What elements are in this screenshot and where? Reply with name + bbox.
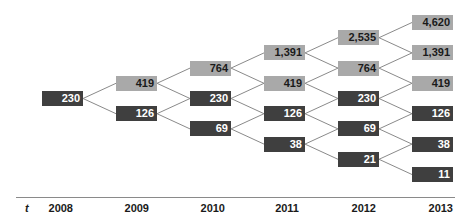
axis-label-2009: 2009 <box>108 202 149 214</box>
tree-link <box>305 129 338 144</box>
tree-node-2011-0: 1,391 <box>264 45 305 60</box>
tree-link <box>305 53 338 68</box>
tree-link <box>157 99 190 114</box>
tree-node-2009-0: 419 <box>116 76 157 91</box>
tree-link <box>379 114 412 129</box>
tree-link <box>305 83 338 98</box>
tree-node-2012-0: 2,535 <box>338 30 379 45</box>
tree-node-2013-4: 38 <box>412 137 453 152</box>
tree-link <box>379 68 412 83</box>
tree-link <box>231 129 264 144</box>
tree-node-2012-3: 69 <box>338 121 379 136</box>
tree-link <box>157 68 190 83</box>
axis-label-2013: 2013 <box>412 202 453 214</box>
tree-link <box>379 129 412 144</box>
tree-link <box>231 53 264 68</box>
tree-link <box>83 99 116 114</box>
binomial-tree-diagram: 230419126764230691,391419126382,53576423… <box>0 0 468 223</box>
tree-link <box>231 99 264 114</box>
tree-link <box>305 144 338 159</box>
tree-link <box>379 83 412 98</box>
tree-node-2010-2: 69 <box>190 121 231 136</box>
tree-link <box>305 68 338 83</box>
tree-node-2012-2: 230 <box>338 91 379 106</box>
tree-link <box>305 114 338 129</box>
axis-label-2010: 2010 <box>184 202 225 214</box>
tree-node-2010-1: 230 <box>190 91 231 106</box>
tree-node-2011-3: 38 <box>264 137 305 152</box>
axis-label-2012: 2012 <box>335 202 376 214</box>
tree-link <box>231 83 264 98</box>
tree-link <box>83 83 116 98</box>
tree-node-2013-0: 4,620 <box>412 15 453 30</box>
tree-node-2012-4: 21 <box>338 152 379 167</box>
tree-node-2009-1: 126 <box>116 106 157 121</box>
axis-variable-label: t <box>25 202 29 214</box>
tree-link <box>305 38 338 53</box>
tree-link <box>379 144 412 159</box>
time-axis-line <box>16 197 455 198</box>
tree-link <box>379 53 412 68</box>
axis-label-2011: 2011 <box>258 202 299 214</box>
axis-label-2008: 2008 <box>32 202 73 214</box>
tree-node-2013-5: 11 <box>412 167 453 182</box>
tree-link <box>157 114 190 129</box>
tree-link <box>379 38 412 53</box>
tree-node-2013-3: 126 <box>412 106 453 121</box>
tree-node-2013-2: 419 <box>412 76 453 91</box>
tree-node-2010-0: 764 <box>190 61 231 76</box>
tree-link <box>305 99 338 114</box>
tree-node-2013-1: 1,391 <box>412 45 453 60</box>
tree-link <box>157 83 190 98</box>
tree-node-2011-2: 126 <box>264 106 305 121</box>
tree-link <box>379 23 412 38</box>
tree-node-2012-1: 764 <box>338 61 379 76</box>
tree-links <box>0 0 468 223</box>
tree-link <box>379 159 412 174</box>
tree-node-2011-1: 419 <box>264 76 305 91</box>
tree-link <box>231 68 264 83</box>
tree-link <box>379 99 412 114</box>
tree-link <box>231 114 264 129</box>
tree-node-2008-0: 230 <box>42 91 83 106</box>
